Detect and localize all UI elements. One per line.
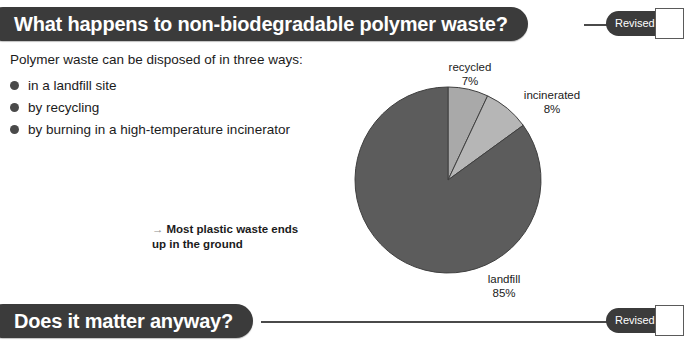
list-item: in a landfill site (10, 74, 290, 96)
revised-checkbox-top[interactable] (655, 8, 684, 39)
arrow-right-icon: → (152, 223, 164, 235)
header-connector-line (261, 321, 612, 323)
bullet-dot-icon (10, 103, 19, 112)
pie-label-landfill: landfill 85% (458, 272, 550, 300)
annotation-line-1: Most plastic waste ends (167, 223, 299, 235)
bullet-dot-icon (10, 81, 19, 90)
section-header-bottom: Does it matter anyway? Revised (0, 302, 682, 342)
page-title-secondary: Does it matter anyway? (14, 311, 233, 331)
list-item-label: in a landfill site (28, 78, 117, 93)
intro-text: Polymer waste can be disposed of in thre… (10, 52, 303, 67)
page-title: What happens to non-biodegradable polyme… (14, 14, 508, 34)
pie-label-recycled-name: recycled (449, 61, 492, 73)
pie-label-landfill-name: landfill (488, 273, 521, 285)
list-item: by recycling (10, 96, 290, 118)
disposal-methods-list: in a landfill site by recycling by burni… (10, 74, 290, 140)
annotation-line-2: up in the ground (152, 238, 243, 250)
section-title-pill-top: What happens to non-biodegradable polyme… (0, 7, 528, 41)
pie-label-incinerated: incinerated 8% (500, 88, 604, 116)
revised-label: Revised (615, 315, 655, 326)
pie-label-incinerated-value: 8% (544, 103, 561, 115)
list-item-label: by burning in a high-temperature inciner… (28, 122, 290, 137)
section-header-top: What happens to non-biodegradable polyme… (0, 5, 682, 45)
pie-label-landfill-value: 85% (492, 287, 515, 299)
list-item: by burning in a high-temperature inciner… (10, 118, 290, 140)
section-title-pill-bottom: Does it matter anyway? (0, 304, 253, 338)
revised-checkbox-bottom[interactable] (655, 305, 684, 336)
pie-label-recycled-value: 7% (462, 75, 479, 87)
bullet-dot-icon (10, 125, 19, 134)
pie-label-incinerated-name: incinerated (524, 89, 580, 101)
list-item-label: by recycling (28, 100, 99, 115)
annotation-callout: →Most plastic waste ends up in the groun… (152, 222, 327, 252)
pie-label-recycled: recycled 7% (424, 60, 516, 88)
revised-label: Revised (615, 18, 655, 29)
